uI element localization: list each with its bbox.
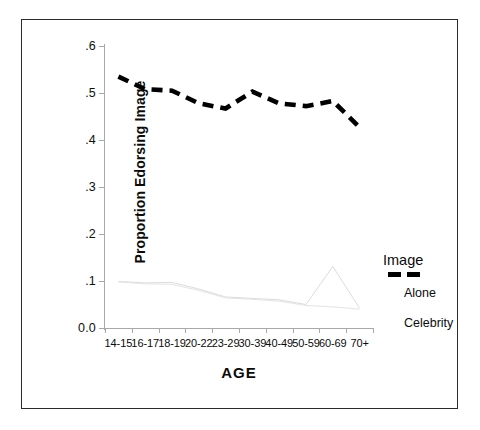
legend-item-image-label: Image bbox=[383, 252, 423, 268]
legend-item-image-sample bbox=[388, 272, 422, 277]
series-line-alone bbox=[118, 266, 359, 308]
chart-figure: Proportion Edorsing Image AGE 0.0.1.2.3.… bbox=[0, 0, 480, 430]
legend-item-celebrity-label: Celebrity bbox=[404, 316, 453, 330]
series-line-celebrity bbox=[118, 282, 359, 309]
legend-item-alone-label: Alone bbox=[404, 286, 436, 300]
series-line-image bbox=[118, 77, 359, 128]
data-series-layer bbox=[0, 0, 480, 430]
